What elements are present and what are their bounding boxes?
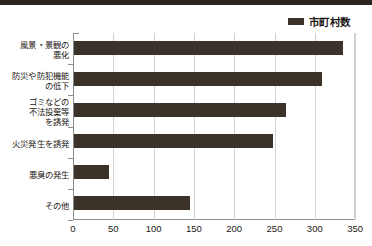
category-label-line: 火災発生を誘発 (3, 139, 69, 149)
y-tick-5 (68, 220, 73, 221)
x-axis-line (73, 219, 355, 220)
x-tick-label-50: 50 (93, 223, 133, 234)
y-tick-1 (68, 95, 73, 96)
category-label-line: を誘発 (3, 117, 69, 127)
category-label-4: 悪臭の発生 (3, 170, 69, 180)
y-axis-top-cap (73, 33, 79, 34)
category-label-line: 風景・景観の (3, 40, 69, 50)
y-axis-line (73, 33, 74, 220)
gridline-100 (154, 33, 155, 220)
y-tick-0 (68, 64, 73, 65)
gridline-150 (194, 33, 195, 220)
bar-2 (74, 103, 286, 117)
x-tick-label-0: 0 (53, 223, 93, 234)
category-label-2: ゴミなどの不法投棄等を誘発 (3, 97, 69, 127)
bar-0 (74, 41, 343, 55)
category-label-line: 悪化 (3, 50, 69, 60)
y-tick-4 (68, 189, 73, 190)
x-tick-label-150: 150 (174, 223, 214, 234)
category-label-5: その他 (3, 201, 69, 211)
gridline-300 (315, 33, 316, 220)
bar-4 (74, 165, 109, 179)
gridline-250 (275, 33, 276, 220)
chart-legend: 市町村数 (288, 14, 350, 28)
x-tick-label-100: 100 (134, 223, 174, 234)
bar-5 (74, 196, 190, 210)
category-label-line: 悪臭の発生 (3, 170, 69, 180)
x-tick-label-250: 250 (255, 223, 295, 234)
category-label-1: 防災や防犯機能の低下 (3, 71, 69, 91)
bar-1 (74, 72, 322, 86)
legend-label: 市町村数 (309, 14, 350, 29)
category-label-line: ゴミなどの (3, 97, 69, 107)
horizontal-bar-chart: 市町村数 風景・景観の悪化 防災や防犯機能の低下 ゴミなどの不法投棄等を誘発 火… (0, 0, 372, 246)
category-label-line: の低下 (3, 81, 69, 91)
x-tick-label-300: 300 (295, 223, 335, 234)
gridline-50 (113, 33, 114, 220)
y-tick-3 (68, 158, 73, 159)
category-label-line: その他 (3, 201, 69, 211)
category-label-3: 火災発生を誘発 (3, 139, 69, 149)
legend-swatch-icon (288, 18, 304, 25)
x-tick-label-350: 350 (335, 223, 372, 234)
y-tick-2 (68, 127, 73, 128)
bar-3 (74, 134, 273, 148)
plot-area (73, 33, 355, 220)
gridline-350 (355, 33, 356, 220)
category-label-line: 不法投棄等 (3, 107, 69, 117)
category-label-0: 風景・景観の悪化 (3, 40, 69, 60)
category-label-line: 防災や防犯機能 (3, 71, 69, 81)
x-tick-label-200: 200 (214, 223, 254, 234)
gridline-200 (234, 33, 235, 220)
